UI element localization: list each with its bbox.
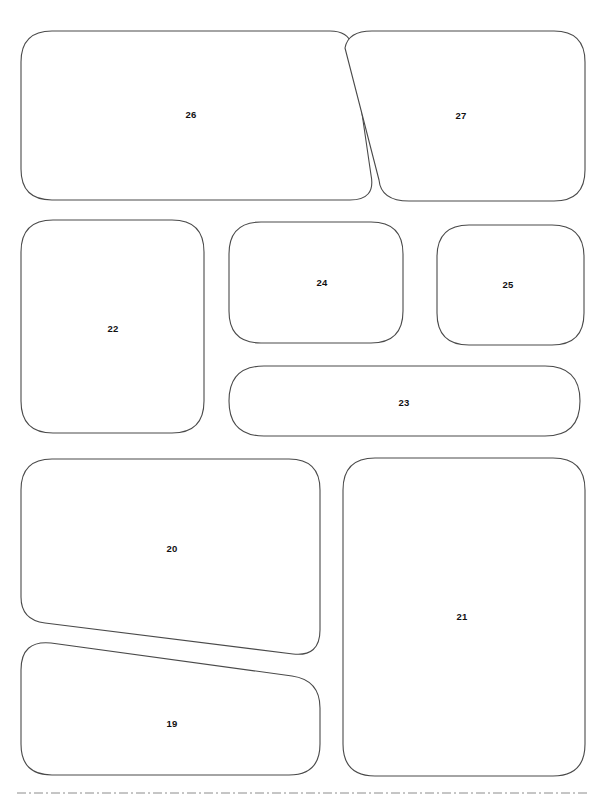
shape-canvas: 262722242523201921 (0, 0, 598, 802)
shape-26-label: 26 (186, 109, 197, 120)
shape-19-label: 19 (167, 718, 178, 729)
shape-layout-sheet: 262722242523201921 (0, 0, 598, 802)
shape-27-label: 27 (456, 110, 467, 121)
shape-group: 262722242523201921 (21, 31, 585, 776)
shape-20[interactable]: 20 (21, 459, 320, 654)
shape-26[interactable]: 26 (21, 31, 372, 200)
shape-25[interactable]: 25 (437, 225, 584, 345)
shape-24[interactable]: 24 (229, 222, 403, 343)
shape-23[interactable]: 23 (229, 366, 580, 436)
shape-20-label: 20 (167, 543, 178, 554)
shape-23-label: 23 (399, 397, 410, 408)
shape-27[interactable]: 27 (345, 31, 585, 201)
shape-19-outline (21, 643, 320, 775)
shape-21[interactable]: 21 (343, 458, 585, 776)
shape-20-outline (21, 459, 320, 654)
shape-24-label: 24 (317, 277, 328, 288)
shape-25-label: 25 (503, 279, 514, 290)
shape-21-label: 21 (457, 611, 468, 622)
shape-22-label: 22 (108, 323, 119, 334)
shape-19[interactable]: 19 (21, 643, 320, 775)
shape-22[interactable]: 22 (21, 220, 204, 433)
